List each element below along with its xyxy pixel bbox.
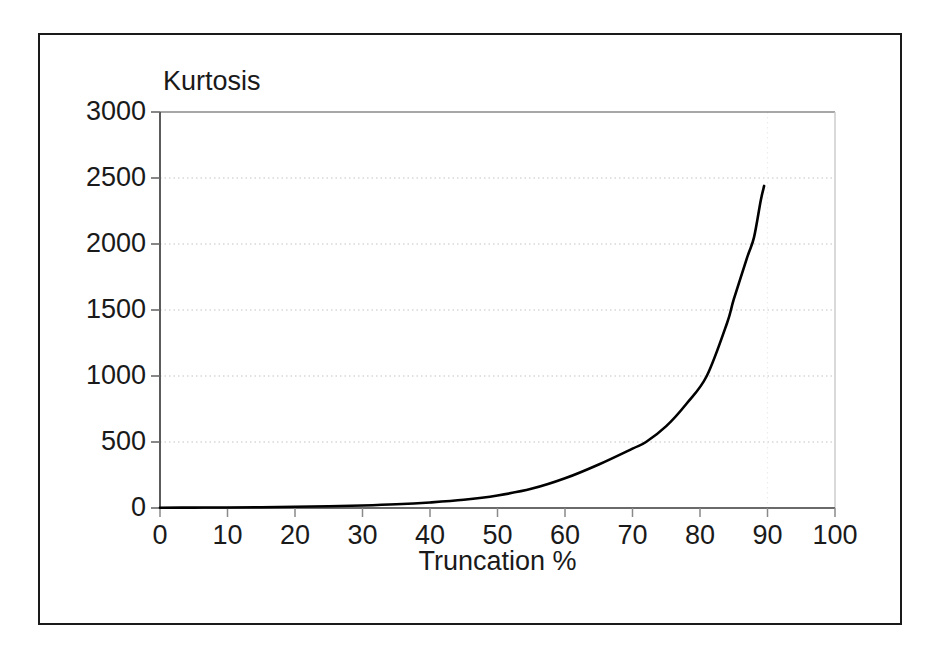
- y-tick-label-1500: 1500: [86, 296, 146, 323]
- y-tick-label-0: 0: [131, 494, 146, 521]
- horizontal-gridlines: [160, 178, 835, 442]
- x-tick-label-100: 100: [785, 522, 885, 549]
- chart-figure: Kurtosis Truncation % 050010001500200025…: [0, 0, 938, 656]
- x-axis-ticks: [160, 508, 835, 517]
- y-tick-label-2500: 2500: [86, 164, 146, 191]
- y-axis-ticks: [151, 112, 160, 508]
- y-tick-label-1000: 1000: [86, 362, 146, 389]
- y-tick-label-3000: 3000: [86, 98, 146, 125]
- y-tick-label-500: 500: [101, 428, 146, 455]
- kurtosis-curve: [160, 186, 764, 508]
- y-tick-label-2000: 2000: [86, 230, 146, 257]
- x-axis-label: Truncation %: [160, 548, 835, 575]
- y-axis-label: Kurtosis: [163, 68, 261, 95]
